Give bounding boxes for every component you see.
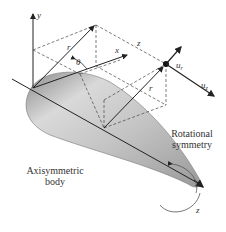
caption-body-line1: Axisymmetric [26, 165, 84, 176]
r-label-right: r [149, 83, 153, 93]
x-axis-label: x [114, 45, 119, 55]
caption-symmetry-line1: Rotational [171, 128, 213, 139]
caption-body-line2: body [45, 176, 65, 187]
r-label-left: r [67, 42, 71, 52]
theta-label: θ [76, 57, 81, 67]
rotation-arc-bottom [160, 193, 200, 212]
u-z-arrow [166, 64, 214, 96]
axisymmetric-body-diagram: y x z z r r θ ur uz Axisymmetric body Ro… [0, 0, 226, 232]
z-top-label: z [136, 38, 141, 48]
u-r-label: ur [176, 60, 184, 71]
u-z-label: uz [201, 80, 209, 91]
caption-symmetry-line2: symmetry [172, 139, 212, 150]
y-axis-label: y [36, 10, 41, 20]
z-bottom-label: z [195, 205, 200, 215]
